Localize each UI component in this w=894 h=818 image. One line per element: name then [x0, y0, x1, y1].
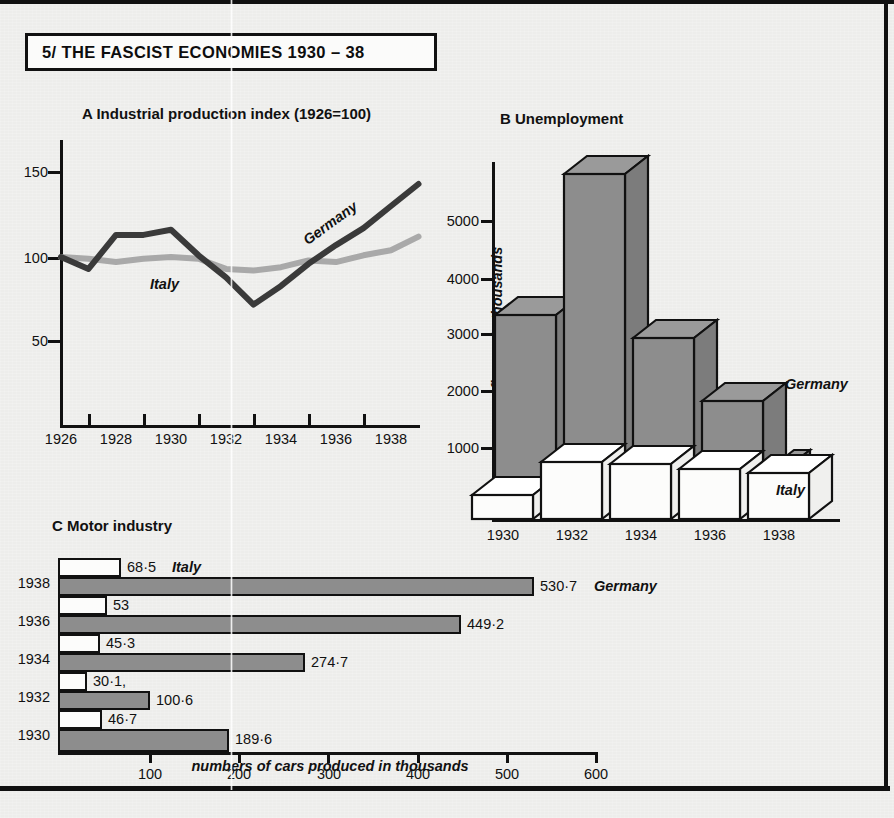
panel-c-value-germany-1936: 449·2 — [467, 616, 504, 632]
panel-c-value-germany-1930: 189·6 — [235, 731, 272, 747]
panel-a-plot — [0, 100, 450, 470]
panel-c-ytick-1936: 1936 — [6, 613, 50, 629]
panel-c-germany-label: Germany — [594, 578, 657, 594]
panel-c-value-italy-1936: 53 — [113, 597, 129, 613]
panel-c-value-germany-1938: 530·7 — [540, 578, 577, 594]
panel-b-italy-label: Italy — [776, 482, 805, 498]
panel-b-plot: .gf{fill:#8d8d8d;stroke:#111;stroke-widt… — [440, 100, 894, 570]
panel-c-bar-germany-1938 — [58, 577, 534, 596]
panel-a-industrial-production: A Industrial production index (1926=100)… — [0, 100, 450, 470]
panel-b-unemployment: B Unemployment figures in thousands 1000… — [440, 100, 894, 570]
panel-a-germany-line — [61, 184, 419, 305]
panel-c-italy-label: Italy — [172, 559, 201, 575]
page-title-box: 5/ THE FASCIST ECONOMIES 1930 – 38 — [25, 33, 437, 71]
panel-c-ytick-1934: 1934 — [6, 651, 50, 667]
panel-c-motor-industry: C Motor industry 1938 1936 1934 1932 193… — [0, 515, 700, 790]
page-title: 5/ THE FASCIST ECONOMIES 1930 – 38 — [28, 43, 365, 62]
page-root: 5/ THE FASCIST ECONOMIES 1930 – 38 A Ind… — [0, 0, 894, 818]
panel-c-bar-germany-1936 — [58, 615, 461, 634]
panel-c-value-italy-1934: 45·3 — [106, 635, 135, 651]
panel-a-italy-label: Italy — [150, 276, 179, 292]
panel-c-ytick-1938: 1938 — [6, 575, 50, 591]
panel-c-value-germany-1932: 100·6 — [156, 692, 193, 708]
panel-c-bar-italy-1932 — [58, 672, 87, 691]
panel-c-xtick-600: 600 — [573, 766, 619, 782]
panel-c-bar-italy-1938 — [58, 558, 121, 577]
panel-c-ytick-1932: 1932 — [6, 689, 50, 705]
panel-c-bar-germany-1934 — [58, 653, 305, 672]
panel-c-bar-italy-1934 — [58, 634, 100, 653]
page-border-top — [0, 0, 894, 4]
panel-a-italy-line — [61, 237, 419, 271]
panel-c-value-italy-1930: 46·7 — [108, 711, 137, 727]
panel-c-axis-caption: numbers of cars produced in thousands — [120, 758, 540, 774]
panel-c-bar-italy-1936 — [58, 596, 107, 615]
panel-c-value-germany-1934: 274·7 — [311, 654, 348, 670]
panel-c-title: C Motor industry — [52, 517, 172, 534]
panel-c-value-italy-1938: 68·5 — [127, 559, 156, 575]
panel-b-xtick-1938: 1938 — [755, 527, 803, 543]
panel-c-bar-italy-1930 — [58, 710, 102, 729]
panel-c-value-italy-1932: 30·1, — [93, 673, 126, 689]
panel-c-bar-germany-1930 — [58, 729, 229, 752]
panel-c-ytick-1930: 1930 — [6, 727, 50, 743]
panel-c-bar-germany-1932 — [58, 691, 150, 710]
panel-c-xtick-mark-600 — [595, 752, 598, 763]
panel-b-germany-label: Germany — [785, 376, 848, 392]
